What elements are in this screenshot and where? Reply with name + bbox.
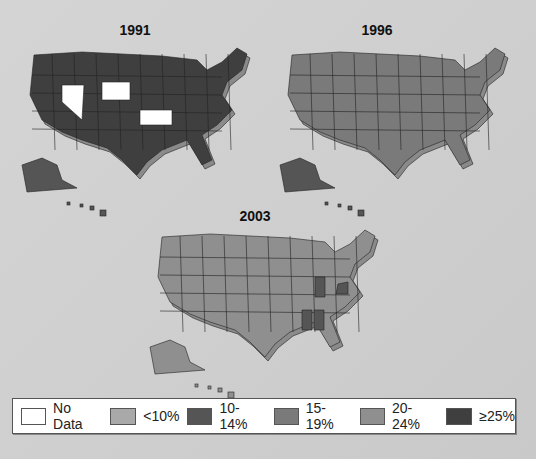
legend-item-no-data: No Data [21,400,102,432]
legend-swatch [360,408,385,425]
legend-item-10-14: 10-14% [187,400,265,432]
legend-swatch [274,408,299,425]
legend-swatch [446,408,472,425]
legend-swatch [187,408,212,425]
legend-item-ge25: ≥25% [446,408,515,425]
map-title-1996: 1996 [337,22,417,38]
legend-label: 20-24% [392,400,438,432]
legend-item-15-19: 15-19% [274,400,352,432]
legend-item-lt10: <10% [110,408,179,425]
map-title-1991: 1991 [95,22,175,38]
legend-swatch [21,408,46,425]
legend-label: 15-19% [306,400,352,432]
legend-swatch [110,408,136,425]
us-map-1991 [22,40,257,205]
us-map-2003 [150,222,385,387]
legend: No Data <10% 10-14% 15-19% 20-24% ≥25% [12,398,516,434]
legend-label: 10-14% [219,400,265,432]
legend-label: No Data [53,400,102,432]
legend-label: <10% [143,408,179,424]
legend-label: ≥25% [479,408,515,424]
us-map-1996 [280,40,515,205]
legend-item-20-24: 20-24% [360,400,438,432]
